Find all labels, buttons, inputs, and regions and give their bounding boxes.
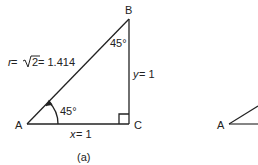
angle-label-B: 45° (110, 37, 127, 49)
partial-hypotenuse (229, 106, 258, 124)
horizontal-side-label: x = 1 (69, 128, 92, 140)
vertex-label-B: B (125, 4, 132, 16)
angle-arc-A (49, 102, 58, 124)
right-angle-marker (119, 114, 129, 124)
hyp-eq: = (11, 56, 17, 68)
angle-label-A: 45° (60, 105, 77, 117)
x-var: x (69, 128, 76, 140)
hypotenuse-AB (27, 19, 129, 124)
hypotenuse-label: r = 2 = 1.414 (8, 56, 75, 68)
vertex-label-C: C (134, 119, 142, 131)
triangle-diagram: B A C 45° 45° r = 2 = 1.414 y = 1 x = 1 … (0, 0, 258, 165)
vertex-label-A: A (15, 119, 23, 131)
triangle-b-partial (229, 106, 258, 124)
hyp-value: = 1.414 (38, 56, 75, 68)
vertex-label-A-b: A (217, 119, 225, 131)
vertical-side-label: y = 1 (132, 68, 155, 80)
y-value: = 1 (139, 68, 155, 80)
x-value: = 1 (76, 128, 92, 140)
triangle-a (27, 19, 129, 124)
figure-caption-a: (a) (77, 151, 90, 163)
